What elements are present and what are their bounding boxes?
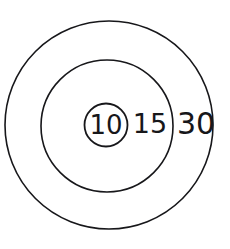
outer-ring-label: 30 (177, 106, 215, 141)
target-diagram: 10 15 30 (0, 0, 230, 249)
inner-ring-label: 10 (89, 110, 122, 140)
concentric-circles-svg: 10 15 30 (0, 0, 230, 249)
middle-ring-label: 15 (133, 108, 167, 139)
